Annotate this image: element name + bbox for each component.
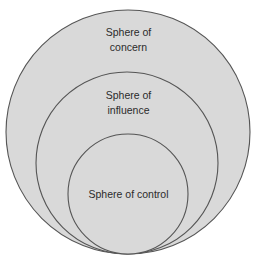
influence-label-line-2: influence [0,103,257,118]
control-label-line-1: Sphere of control [0,187,257,202]
sphere-of-influence-label: Sphere of influence [0,88,257,118]
sphere-of-concern-label: Sphere of concern [0,25,257,55]
concern-label-line-1: Sphere of [0,25,257,40]
concern-label-line-2: concern [0,40,257,55]
sphere-of-control-label: Sphere of control [0,187,257,202]
influence-label-line-1: Sphere of [0,88,257,103]
spheres-diagram: Sphere of concern Sphere of influence Sp… [0,0,257,260]
